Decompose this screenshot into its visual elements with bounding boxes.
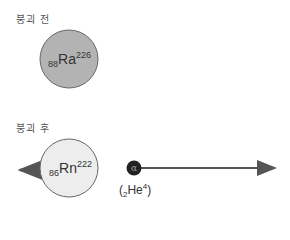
radon-notation: 86Rn222 — [49, 159, 92, 178]
alpha-symbol: α — [131, 163, 137, 173]
radium-symbol: Ra — [58, 51, 76, 67]
radium-notation: 88Ra226 — [48, 50, 91, 69]
helium-symbol: He — [127, 183, 142, 197]
radium-atomic-number: 88 — [48, 59, 58, 69]
radon-symbol: Rn — [59, 160, 77, 176]
helium-notation: (2He4) — [119, 182, 151, 199]
radium-mass-number: 226 — [76, 50, 91, 60]
radon-mass-number: 222 — [77, 159, 92, 169]
radon-atomic-number: 86 — [49, 168, 59, 178]
